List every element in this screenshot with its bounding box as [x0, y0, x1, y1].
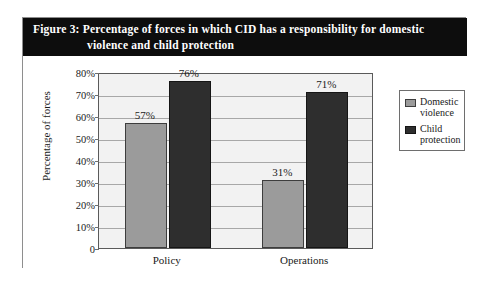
legend-label-line-2: protection: [420, 134, 461, 145]
y-axis-tick-label: 80%: [49, 68, 95, 79]
x-axis-category-label: Operations: [280, 254, 328, 266]
y-axis-tick-mark: [95, 95, 99, 96]
bar-policy-child-protection: [169, 81, 211, 248]
legend-label: Domesticviolence: [420, 96, 458, 118]
legend-label-line-1: Domestic: [420, 96, 458, 107]
figure-caption-line-2: violence and child protection: [33, 37, 457, 53]
y-axis-tick-label: 0: [49, 244, 95, 255]
y-axis-tick-mark: [95, 117, 99, 118]
plot-area: [98, 73, 373, 249]
y-axis-tick-mark: [95, 183, 99, 184]
y-axis-tick-mark: [95, 139, 99, 140]
y-axis-tick-label: 60%: [49, 112, 95, 123]
bar-value-label: 71%: [316, 78, 336, 90]
legend-label-line-2: violence: [420, 107, 458, 118]
figure-frame: Figure 3: Percentage of forces in which …: [22, 17, 466, 268]
x-axis-category-label: Policy: [153, 254, 181, 266]
y-axis-tick-label: 70%: [49, 90, 95, 101]
figure-caption-bar: Figure 3: Percentage of forces in which …: [23, 18, 467, 56]
bar-value-label: 76%: [179, 67, 199, 79]
legend-swatch-icon: [405, 99, 416, 107]
y-axis-tick-label: 20%: [49, 200, 95, 211]
bar-policy-domestic-violence: [125, 123, 167, 248]
bar-operations-child-protection: [306, 92, 348, 248]
y-axis-tick-label: 10%: [49, 222, 95, 233]
legend-entry-domestic-violence: Domesticviolence: [405, 96, 460, 118]
chart-legend: DomesticviolenceChildprotection: [399, 90, 465, 151]
y-axis-tick-mark: [95, 161, 99, 162]
figure-caption-line-1: Figure 3: Percentage of forces in which …: [33, 21, 457, 37]
chart-area: Percentage of forces 010%20%30%40%50%60%…: [23, 56, 467, 268]
y-axis-tick-labels: 010%20%30%40%50%60%70%80%: [49, 73, 95, 249]
bar-value-label: 57%: [135, 109, 155, 121]
y-axis-tick-mark: [95, 73, 99, 74]
y-axis-tick-mark: [95, 249, 99, 250]
bar-value-label: 31%: [272, 166, 292, 178]
y-axis-tick-label: 40%: [49, 156, 95, 167]
bar-operations-domestic-violence: [262, 180, 304, 248]
legend-label: Childprotection: [420, 123, 461, 145]
legend-label-line-1: Child: [420, 123, 461, 134]
legend-entry-child-protection: Childprotection: [405, 123, 460, 145]
y-axis-tick-label: 30%: [49, 178, 95, 189]
y-axis-tick-mark: [95, 205, 99, 206]
y-axis-tick-label: 50%: [49, 134, 95, 145]
y-axis-tick-mark: [95, 227, 99, 228]
legend-swatch-icon: [405, 126, 416, 134]
